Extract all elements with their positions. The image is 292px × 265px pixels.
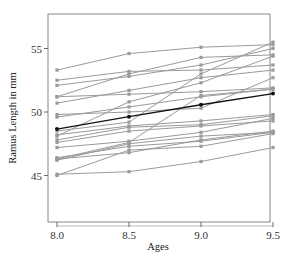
data-point-marker <box>199 68 202 71</box>
data-point-marker <box>55 133 58 136</box>
data-point-marker <box>127 124 130 127</box>
data-point-marker <box>55 174 58 177</box>
data-point-marker <box>55 79 58 82</box>
data-point-marker <box>55 157 58 160</box>
data-point-marker <box>199 56 202 59</box>
data-point-marker <box>199 138 202 141</box>
mean-point-marker <box>55 127 59 131</box>
x-tick-label: 9.5 <box>266 229 280 241</box>
data-point-marker <box>271 68 274 71</box>
data-point-marker <box>199 76 202 79</box>
x-tick-label: 9.0 <box>194 229 208 241</box>
data-point-marker <box>199 94 202 97</box>
data-point-marker <box>199 131 202 134</box>
data-point-marker <box>127 52 130 55</box>
data-point-marker <box>199 145 202 148</box>
data-point-marker <box>199 160 202 163</box>
data-point-marker <box>199 63 202 66</box>
x-tick-label: 8.5 <box>122 229 136 241</box>
data-point-marker <box>271 47 274 50</box>
data-point-marker <box>55 141 58 144</box>
ramus-length-line-chart: 455055 8.08.59.09.5 Ages Ramus Length in… <box>0 0 292 265</box>
mean-point-marker <box>127 115 131 119</box>
data-point-marker <box>55 102 58 105</box>
data-point-marker <box>127 75 130 78</box>
data-point-marker <box>55 115 58 118</box>
data-point-marker <box>127 141 130 144</box>
mean-point-marker <box>199 103 203 107</box>
data-point-marker <box>127 93 130 96</box>
mean-point-marker <box>271 92 275 96</box>
data-point-marker <box>271 131 274 134</box>
data-point-marker <box>271 55 274 58</box>
data-point-marker <box>199 46 202 49</box>
data-point-marker <box>271 63 274 66</box>
data-point-marker <box>199 124 202 127</box>
data-point-marker <box>199 135 202 138</box>
x-axis: 8.08.59.09.5 <box>50 222 280 241</box>
x-axis-title: Ages <box>147 241 169 252</box>
data-point-marker <box>127 129 130 132</box>
data-point-marker <box>127 100 130 103</box>
y-tick-label: 55 <box>31 43 43 55</box>
data-point-marker <box>127 89 130 92</box>
data-point-marker <box>199 90 202 93</box>
data-point-marker <box>127 149 130 152</box>
data-point-marker <box>55 68 58 71</box>
data-point-marker <box>127 110 130 113</box>
data-point-marker <box>271 113 274 116</box>
data-point-marker <box>199 72 202 75</box>
data-point-marker <box>127 170 130 173</box>
data-point-marker <box>271 43 274 46</box>
data-point-marker <box>271 76 274 79</box>
y-tick-label: 50 <box>31 106 43 118</box>
y-axis-title: Ramus Length in mm <box>7 72 18 163</box>
data-point-marker <box>55 95 58 98</box>
y-tick-label: 45 <box>31 170 43 182</box>
data-point-marker <box>271 117 274 120</box>
data-point-marker <box>199 107 202 110</box>
data-point-marker <box>127 105 130 108</box>
y-axis: 455055 <box>31 43 48 182</box>
x-tick-label: 8.0 <box>50 229 64 241</box>
data-point-marker <box>127 121 130 124</box>
data-point-marker <box>55 84 58 87</box>
data-point-marker <box>199 81 202 84</box>
data-point-marker <box>55 146 58 149</box>
data-point-marker <box>271 146 274 149</box>
data-point-marker <box>271 88 274 91</box>
data-point-marker <box>199 119 202 122</box>
